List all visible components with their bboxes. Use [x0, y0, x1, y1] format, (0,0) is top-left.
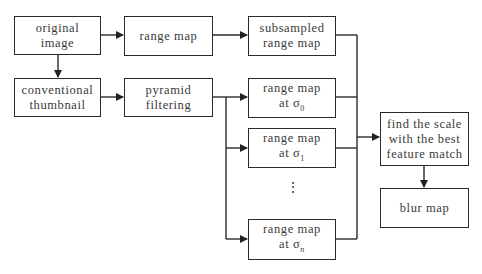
node-label-with-subscript: at σ1 [279, 146, 305, 166]
ellipsis-vertical: ⋮ [286, 185, 296, 191]
node-label: thumbnail [29, 98, 85, 113]
node-conventional-thumbnail: conventional thumbnail [14, 78, 101, 117]
node-range-map: range map [124, 16, 213, 56]
node-label: conventional [22, 83, 94, 98]
sigma-subscript: 1 [300, 153, 305, 162]
node-label-with-subscript: at σ0 [279, 96, 305, 116]
node-label: range map [263, 222, 321, 237]
node-label: image [41, 36, 75, 51]
node-original-image: original image [14, 16, 101, 55]
node-label: range map [263, 81, 321, 96]
node-label: subsampled [259, 21, 324, 36]
node-label-with-subscript: at σn [279, 237, 305, 257]
node-label: original [36, 21, 80, 36]
node-label: at σ [279, 96, 300, 110]
sigma-subscript: 0 [300, 103, 305, 112]
node-label: with the best [389, 132, 461, 147]
node-pyramid-filtering: pyramid filtering [124, 78, 213, 117]
node-label: find the scale [387, 117, 462, 132]
node-label: range map [263, 36, 321, 51]
node-blur-map: blur map [380, 188, 469, 228]
node-find-scale: find the scale with the best feature mat… [380, 112, 469, 166]
node-range-map-sigma-n: range map at σn [248, 219, 336, 260]
node-label: range map [263, 131, 321, 146]
node-label: at σ [279, 237, 300, 251]
node-label: filtering [146, 98, 192, 113]
node-label: blur map [400, 201, 450, 216]
node-label: at σ [279, 146, 300, 160]
node-label: feature match [386, 147, 462, 162]
sigma-subscript: n [300, 245, 305, 254]
node-subsampled-range-map: subsampled range map [248, 16, 336, 56]
node-label: pyramid [146, 83, 192, 98]
node-label: range map [140, 29, 198, 44]
node-range-map-sigma-1: range map at σ1 [248, 128, 336, 168]
node-range-map-sigma-0: range map at σ0 [248, 78, 336, 118]
